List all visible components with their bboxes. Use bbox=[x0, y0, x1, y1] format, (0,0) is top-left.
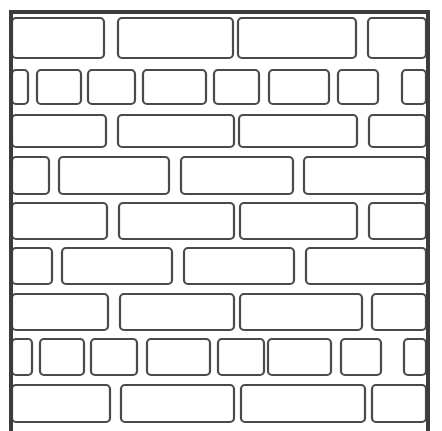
brick bbox=[12, 385, 110, 422]
brick bbox=[143, 70, 206, 104]
brick bbox=[304, 157, 426, 194]
brick bbox=[121, 385, 234, 422]
brick bbox=[12, 70, 28, 104]
brick bbox=[40, 339, 84, 375]
brick bbox=[181, 157, 293, 194]
brick bbox=[91, 339, 137, 375]
brick bbox=[12, 339, 32, 375]
brick bbox=[120, 294, 234, 330]
row-1 bbox=[12, 18, 426, 58]
brick bbox=[12, 157, 49, 194]
brick bbox=[37, 70, 81, 104]
brick bbox=[59, 157, 169, 194]
brick bbox=[62, 248, 172, 284]
brick-rows bbox=[12, 18, 426, 422]
row-7 bbox=[12, 294, 426, 330]
brick bbox=[402, 70, 426, 104]
brick bbox=[241, 385, 365, 422]
brick bbox=[368, 18, 426, 58]
brick bbox=[338, 70, 378, 104]
brick bbox=[240, 294, 362, 330]
brick bbox=[118, 115, 234, 147]
brick bbox=[372, 385, 426, 422]
row-9 bbox=[12, 385, 426, 422]
brick-wall-drawing bbox=[0, 0, 442, 431]
brick bbox=[119, 203, 234, 239]
brick bbox=[240, 203, 357, 239]
brick bbox=[184, 248, 294, 284]
brick bbox=[372, 294, 426, 330]
brick bbox=[118, 18, 233, 58]
brick bbox=[369, 115, 426, 147]
row-2 bbox=[12, 70, 426, 104]
brick bbox=[306, 248, 426, 284]
row-3 bbox=[12, 115, 426, 147]
brick bbox=[214, 70, 259, 104]
brick bbox=[12, 18, 104, 58]
brick bbox=[404, 339, 426, 375]
row-8 bbox=[12, 339, 426, 375]
brick bbox=[147, 339, 210, 375]
brick bbox=[268, 339, 331, 375]
brick bbox=[269, 70, 329, 104]
brick bbox=[341, 339, 381, 375]
brick bbox=[238, 18, 356, 58]
brick bbox=[12, 115, 106, 147]
brick bbox=[88, 70, 135, 104]
row-4 bbox=[12, 157, 426, 194]
row-6 bbox=[12, 248, 426, 284]
brick bbox=[12, 294, 108, 330]
brick bbox=[12, 248, 52, 284]
brick bbox=[239, 115, 357, 147]
brick bbox=[12, 203, 107, 239]
brick bbox=[218, 339, 264, 375]
row-5 bbox=[12, 203, 426, 239]
brick bbox=[369, 203, 426, 239]
